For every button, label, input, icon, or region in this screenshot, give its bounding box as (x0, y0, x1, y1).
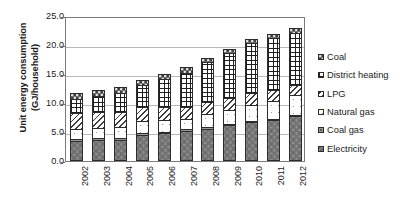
x-axis-tick-label: 2009 (234, 166, 243, 200)
bar-segment-lpg (223, 98, 236, 110)
legend-item-districtheating: District heating (318, 66, 404, 84)
bar-segment-coal (158, 74, 171, 79)
legend-item-naturalgas: Natural gas (318, 103, 404, 121)
y-axis-tick-label: 5.0 (26, 128, 64, 137)
bar-segment-electricity (158, 133, 171, 161)
bar-segment-naturalgas (245, 105, 258, 121)
y-axis-tick-label: 10.0 (26, 99, 64, 108)
bar-segment-districtheating (92, 96, 105, 112)
bar-segment-coalgas (223, 124, 236, 125)
bar-segment-lpg (201, 102, 214, 114)
bar-segment-districtheating (158, 79, 171, 107)
bar-segment-coalgas (267, 119, 280, 120)
bar-segment-electricity (136, 135, 149, 161)
legend-item-label: Natural gas (327, 107, 375, 117)
bar-segment-districtheating (289, 33, 302, 85)
y-axis-tick-mark (61, 162, 65, 163)
bar-segment-electricity (223, 125, 236, 161)
bar-segment-coal (267, 34, 280, 38)
bar-segment-coalgas (136, 133, 149, 134)
bar-segment-coalgas (289, 115, 302, 116)
bar-segment-naturalgas (201, 114, 214, 127)
bar-column (223, 49, 236, 161)
bar-segment-naturalgas (223, 110, 236, 123)
bar-column (158, 74, 171, 161)
bar-segment-electricity (92, 140, 105, 161)
bar-column (245, 39, 258, 161)
bar-segment-districtheating (267, 38, 280, 90)
legend-swatch-icon (318, 91, 324, 97)
bar-segment-coal (289, 28, 302, 33)
bar-segment-coal (70, 93, 83, 99)
bar-column (114, 87, 127, 161)
bar-segment-coal (245, 39, 258, 43)
bar-segment-naturalgas (70, 129, 83, 139)
legend-swatch-icon (318, 146, 324, 152)
bar-segment-districtheating (136, 85, 149, 108)
bar-segment-coal (201, 58, 214, 62)
x-axis-tick-label: 2007 (190, 166, 199, 200)
bar-segment-lpg (92, 112, 105, 128)
bar-segment-lpg (114, 112, 127, 127)
bar-segment-electricity (70, 141, 83, 161)
bar-segment-coalgas (158, 132, 171, 133)
bar-segment-electricity (289, 116, 302, 161)
y-axis-tick-label: 25.0 (26, 12, 64, 21)
bar-segment-coal (180, 67, 193, 72)
legend-item-label: Coal (327, 52, 346, 62)
legend-item-label: Coal gas (327, 125, 364, 135)
legend-swatch-icon (318, 72, 324, 78)
bar-column (267, 34, 280, 161)
bar-segment-districtheating (223, 53, 236, 98)
bar-segment-electricity (245, 122, 258, 161)
bar-segment-lpg (289, 85, 302, 95)
bar-segment-naturalgas (92, 128, 105, 138)
stacked-bar-chart: Unit energy consumption (GJ/household) 0… (0, 0, 405, 219)
bar-segment-coal (92, 90, 105, 96)
x-axis-tick-label: 2011 (277, 166, 286, 200)
bar-segment-lpg (267, 90, 280, 101)
x-axis-tick-label: 2008 (212, 166, 221, 200)
bar-segment-districtheating (201, 62, 214, 102)
bar-segment-coalgas (201, 127, 214, 128)
bar-column (180, 67, 193, 161)
bar-segment-districtheating (70, 99, 83, 114)
x-axis-tick-label: 2006 (168, 166, 177, 200)
bar-segment-lpg (136, 107, 149, 121)
y-axis-tick-label: 20.0 (26, 41, 64, 50)
bar-column (136, 80, 149, 161)
bar-column (70, 93, 83, 161)
bar-segment-coalgas (245, 121, 258, 122)
legend-item-label: LPG (327, 89, 346, 99)
bar-segment-naturalgas (267, 101, 280, 119)
legend-swatch-icon (318, 54, 324, 60)
bar-segment-districtheating (114, 93, 127, 112)
bar-segment-electricity (180, 131, 193, 161)
legend-swatch-icon (318, 127, 324, 133)
legend-item-label: District heating (327, 70, 389, 80)
bar-column (92, 90, 105, 161)
legend-item-coal: Coal (318, 48, 404, 66)
bar-segment-districtheating (245, 43, 258, 93)
bar-segment-coalgas (70, 139, 83, 140)
legend: CoalDistrict heatingLPGNatural gasCoal g… (318, 48, 404, 158)
bar-segment-lpg (158, 107, 171, 120)
x-axis-tick-label: 2002 (81, 166, 90, 200)
x-axis-tick-label: 2005 (146, 166, 155, 200)
x-axis-tick-label: 2004 (125, 166, 134, 200)
legend-item-electricity: Electricity (318, 139, 404, 157)
bar-segment-electricity (267, 120, 280, 161)
legend-swatch-icon (318, 109, 324, 115)
bar-segment-lpg (70, 113, 83, 129)
x-axis-tick-label: 2010 (255, 166, 264, 200)
bar-segment-coalgas (114, 138, 127, 139)
bar-segment-lpg (245, 93, 258, 105)
y-axis-tick-label: 15.0 (26, 70, 64, 79)
bar-segment-lpg (180, 107, 193, 119)
legend-item-lpg: LPG (318, 85, 404, 103)
legend-item-label: Electricity (327, 144, 367, 154)
bar-segment-coalgas (92, 138, 105, 139)
bar-segment-coal (223, 49, 236, 53)
bar-segment-coal (136, 80, 149, 85)
bar-segment-naturalgas (114, 127, 127, 138)
